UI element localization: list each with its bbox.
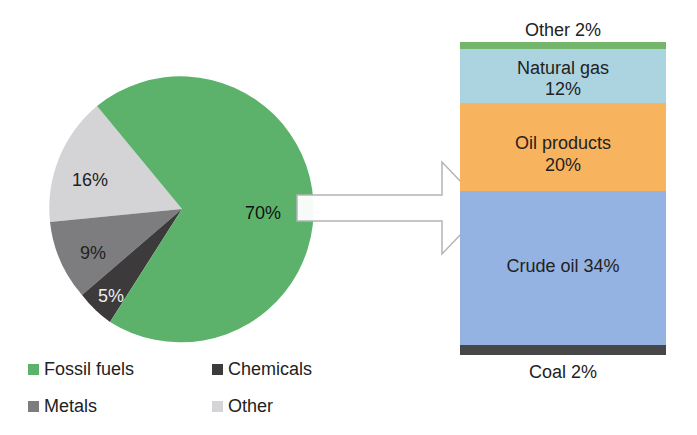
bar-label-oil-products-pct: 20% (460, 155, 666, 175)
legend-swatch-other (212, 401, 223, 412)
bar-label-natural-gas-name: Natural gas (460, 58, 666, 78)
legend-label: Fossil fuels (44, 359, 134, 380)
legend-swatch-fossil (28, 364, 39, 375)
legend-item-metals: Metals (28, 396, 97, 417)
bar-label-other: Other 2% (460, 20, 666, 40)
legend-swatch-metals (28, 401, 39, 412)
pie-label-metals: 9% (80, 243, 106, 263)
bar-label-oil-products-name: Oil products (460, 133, 666, 153)
legend-item-chemicals: Chemicals (212, 359, 312, 380)
bar-label-coal: Coal 2% (460, 362, 666, 382)
legend-item-fossil-fuels: Fossil fuels (28, 359, 134, 380)
bar-segment-coal (460, 345, 666, 355)
arrow-shape (297, 162, 486, 254)
bar-segment-other (460, 42, 666, 49)
legend-item-other: Other (212, 396, 273, 417)
legend-swatch-chemicals (212, 364, 223, 375)
legend-label: Other (228, 396, 273, 417)
pie-label-fossil-fuels: 70% (245, 203, 281, 223)
bar-label-natural-gas-pct: 12% (460, 79, 666, 99)
bar-label-crude-oil: Crude oil 34% (460, 256, 666, 276)
legend-label: Chemicals (228, 359, 312, 380)
pie-label-other: 16% (72, 170, 108, 190)
pie-label-chemicals: 5% (98, 286, 124, 306)
legend-label: Metals (44, 396, 97, 417)
